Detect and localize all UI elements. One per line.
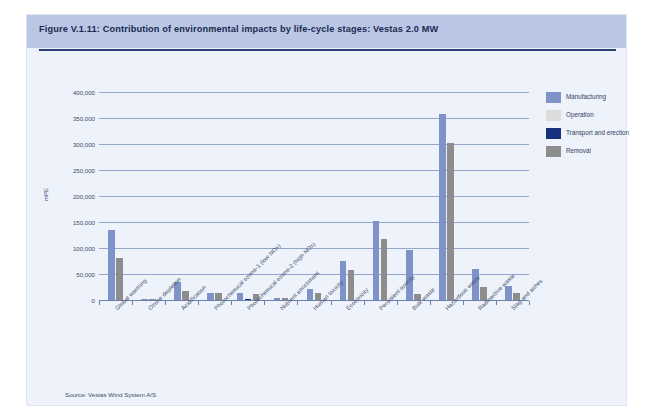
legend-item-removal: Removal (546, 145, 653, 161)
x-axis-tick (430, 301, 431, 305)
bar-group (132, 92, 165, 300)
bar (108, 230, 115, 300)
y-axis-tick-label: 200,000 (73, 193, 95, 200)
legend-label: Transport and erection (566, 129, 629, 136)
bar (207, 293, 214, 300)
bar (439, 114, 446, 300)
x-axis-tick (529, 301, 530, 305)
bar-group (496, 92, 529, 300)
legend-swatch-manufacturing (546, 92, 561, 103)
x-axis-tick (496, 301, 497, 305)
x-axis-tick (231, 301, 232, 305)
bar (505, 286, 512, 300)
x-axis-tick (463, 301, 464, 305)
bar-group (198, 92, 231, 300)
bar (381, 239, 388, 300)
x-axis-tick (132, 301, 133, 305)
x-axis-tick (165, 301, 166, 305)
legend-item-transport: Transport and erection (546, 127, 653, 143)
x-axis-line (99, 300, 529, 301)
y-axis-tick-label: 300,000 (73, 141, 95, 148)
figure-title: Figure V.1.11: Contribution of environme… (39, 24, 438, 34)
x-axis-tick (99, 301, 100, 305)
x-axis-tick (297, 301, 298, 305)
legend-swatch-removal (546, 146, 561, 157)
chart-body: mPE 400,000350,000300,000250,000200,0001… (27, 51, 628, 371)
legend-label: Operation (566, 111, 594, 118)
bar-group (430, 92, 463, 300)
x-axis-tick (264, 301, 265, 305)
x-axis-tick (331, 301, 332, 305)
y-axis-tick-label: 350,000 (73, 115, 95, 122)
legend-item-operation: Operation (546, 109, 653, 125)
bar-group (297, 92, 330, 300)
screenshot-root: Figure V.1.11: Contribution of environme… (0, 0, 653, 420)
x-axis-tick (397, 301, 398, 305)
y-axis-tick-label: 250,000 (73, 167, 95, 174)
legend-item-manufacturing: Manufacturing (546, 91, 653, 107)
bar-group (397, 92, 430, 300)
figure-panel: Figure V.1.11: Contribution of environme… (26, 14, 627, 406)
bar-group (331, 92, 364, 300)
legend-swatch-operation (546, 110, 561, 121)
bar (116, 258, 123, 300)
bar (307, 289, 314, 300)
bar-group (463, 92, 496, 300)
y-axis-tick-label: 0 (92, 297, 95, 304)
x-axis-tick (198, 301, 199, 305)
legend-label: Manufacturing (566, 93, 606, 100)
bar (447, 143, 454, 300)
bar (373, 221, 380, 300)
legend-swatch-transport (546, 128, 561, 139)
y-axis-tick-labels: 400,000350,000300,000250,000200,000150,0… (51, 92, 95, 300)
plot-area (99, 92, 529, 300)
legend-label: Removal (566, 147, 591, 154)
source-note: Source: Vestas Wind System A/S (65, 391, 156, 398)
y-axis-tick-label: 150,000 (73, 219, 95, 226)
bar-group (99, 92, 132, 300)
y-axis-tick-label: 100,000 (73, 245, 95, 252)
bar-group (165, 92, 198, 300)
y-axis-title: mPE (43, 188, 49, 201)
bar (348, 270, 355, 300)
y-axis-tick-label: 50,000 (76, 271, 95, 278)
bar (237, 293, 244, 300)
x-axis-tick (364, 301, 365, 305)
chart-legend: ManufacturingOperationTransport and erec… (546, 91, 653, 163)
y-axis-tick-label: 400,000 (73, 89, 95, 96)
bar-group (364, 92, 397, 300)
